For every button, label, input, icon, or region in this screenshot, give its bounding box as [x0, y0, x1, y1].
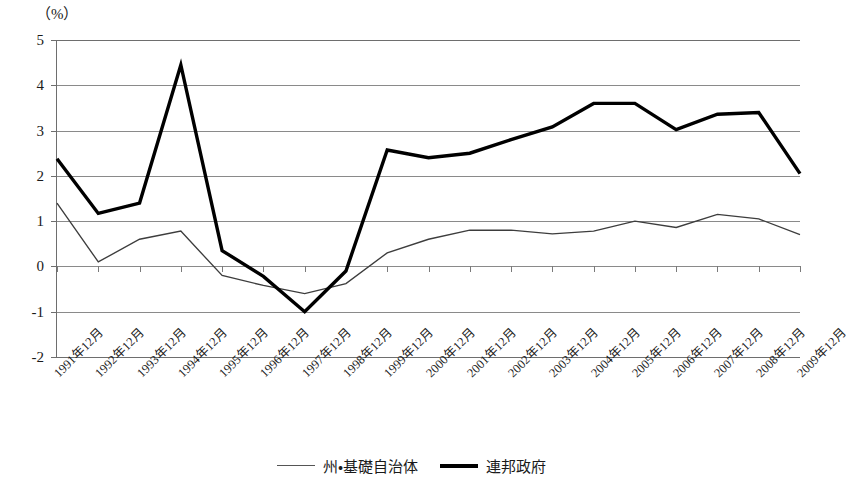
legend-item-state: 州・基礎自治体 [277, 455, 418, 476]
legend-label-state: 州・基礎自治体 [323, 455, 418, 476]
legend-item-federal: 連邦政府 [440, 455, 546, 476]
series-line-state [57, 203, 800, 294]
chart-legend: 州・基礎自治体 連邦政府 [0, 455, 822, 476]
legend-label-federal: 連邦政府 [486, 455, 546, 476]
thin-line-swatch-icon [277, 465, 315, 466]
series-line-federal [57, 65, 800, 312]
thick-line-swatch-icon [440, 464, 478, 468]
